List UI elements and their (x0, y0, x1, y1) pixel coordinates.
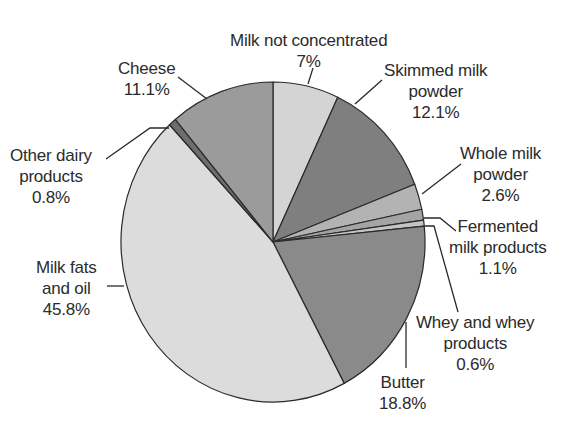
label-text: products (416, 333, 534, 354)
label-value: 0.6% (416, 354, 534, 375)
pie-slices (121, 82, 425, 402)
label-text: and oil (36, 278, 97, 299)
label-text: Fermented (449, 216, 547, 237)
leader-cheese (178, 77, 207, 99)
label-text: Skimmed milk (384, 60, 487, 81)
label-value: 0.8% (10, 187, 92, 208)
label-fermented: Fermented milk products 1.1% (449, 216, 547, 279)
label-value: 18.8% (379, 393, 426, 414)
leader-skimmed (355, 80, 382, 104)
label-text: Other dairy (10, 145, 92, 166)
label-text: milk products (449, 237, 547, 258)
label-butter: Butter 18.8% (379, 372, 426, 414)
label-value: 7% (230, 51, 387, 72)
label-text: powder (460, 164, 541, 185)
label-text: products (10, 166, 92, 187)
label-milk-not-concentrated: Milk not concentrated 7% (230, 30, 387, 72)
label-text: Cheese (118, 58, 175, 79)
label-milk-fats: Milk fats and oil 45.8% (36, 257, 97, 320)
label-whole: Whole milk powder 2.6% (460, 143, 541, 206)
label-text: Milk not concentrated (230, 30, 387, 51)
label-other: Other dairy products 0.8% (10, 145, 92, 208)
label-value: 2.6% (460, 185, 541, 206)
label-text: Butter (379, 372, 426, 393)
label-value: 11.1% (118, 79, 175, 100)
label-value: 1.1% (449, 258, 547, 279)
label-whey: Whey and whey products 0.6% (416, 312, 534, 375)
label-cheese: Cheese 11.1% (118, 58, 175, 100)
label-value: 12.1% (384, 102, 487, 123)
label-text: Whole milk (460, 143, 541, 164)
label-value: 45.8% (36, 299, 97, 320)
label-text: Milk fats (36, 257, 97, 278)
label-text: Whey and whey (416, 312, 534, 333)
label-skimmed: Skimmed milk powder 12.1% (384, 60, 487, 123)
label-text: powder (384, 81, 487, 102)
leader-whole (422, 164, 461, 194)
